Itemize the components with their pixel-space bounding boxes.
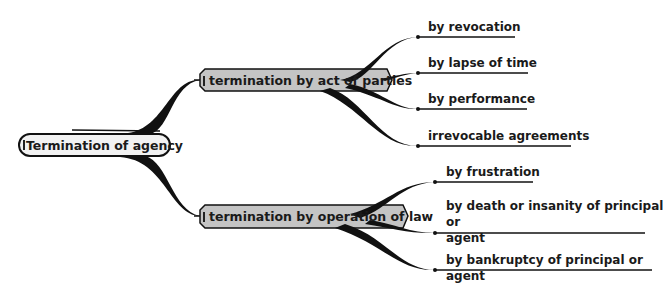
leaf-label: by lapse of time bbox=[428, 56, 537, 70]
branch-label: termination by act of parties bbox=[209, 73, 412, 88]
leaf-node[interactable]: by lapse of time bbox=[428, 55, 537, 71]
leaf-node[interactable]: by frustration bbox=[446, 164, 540, 180]
collapse-minus-icon[interactable] bbox=[203, 76, 205, 86]
collapse-minus-icon[interactable] bbox=[23, 140, 25, 150]
leaf-label: by performance bbox=[428, 92, 535, 106]
branch-node-operation-of-law[interactable]: termination by operation of law bbox=[200, 205, 408, 228]
leaf-label-line2: agent bbox=[446, 230, 668, 246]
leaf-label: by revocation bbox=[428, 20, 521, 34]
leaf-node[interactable]: irrevocable agreements bbox=[428, 128, 589, 144]
leaf-node[interactable]: by revocation bbox=[428, 19, 521, 35]
leaf-node[interactable]: by death or insanity of principal or age… bbox=[446, 198, 668, 246]
leaf-label: by death or insanity of principal or bbox=[446, 198, 668, 230]
leaf-label: by frustration bbox=[446, 165, 540, 179]
leaf-label: by bankruptcy of principal or agent bbox=[446, 253, 643, 283]
collapse-minus-icon[interactable] bbox=[203, 212, 205, 222]
leaf-node[interactable]: by bankruptcy of principal or agent bbox=[446, 252, 668, 284]
leaf-label: irrevocable agreements bbox=[428, 129, 589, 143]
leaf-node[interactable]: by performance bbox=[428, 91, 535, 107]
root-node[interactable]: Termination of agency bbox=[18, 133, 171, 157]
branch-node-act-of-parties[interactable]: termination by act of parties bbox=[200, 69, 392, 92]
branch-label: termination by operation of law bbox=[209, 209, 433, 224]
root-label: Termination of agency bbox=[26, 138, 183, 153]
